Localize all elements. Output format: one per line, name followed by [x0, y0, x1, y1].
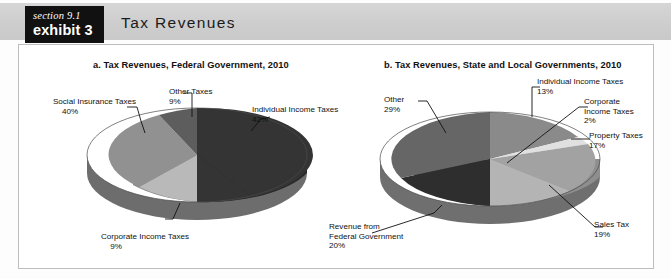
page-title: Tax Revenues	[121, 14, 236, 32]
label-individual-income-taxes-b: Individual Income Taxes 13%	[537, 77, 657, 96]
label-property-taxes: Property Taxes 17%	[589, 131, 669, 150]
label-sales-tax: Sales Tax 19%	[594, 220, 656, 239]
chart-a-title: a. Tax Revenues, Federal Government, 201…	[93, 60, 289, 70]
label-social-insurance-taxes-pct: 40%	[18, 107, 136, 117]
label-sales-tax-pct: 19%	[594, 230, 656, 240]
exhibit-content: a. Tax Revenues, Federal Government, 201…	[18, 44, 654, 269]
label-revenue-federal-government: Revenue from Federal Government 20%	[329, 222, 453, 251]
label-property-taxes-text: Property Taxes	[589, 131, 643, 140]
label-sales-tax-text: Sales Tax	[594, 220, 629, 229]
header-band: section 9.1 exhibit 3 Tax Revenues	[0, 3, 671, 40]
label-corporate-income-taxes-b-l1: Corporate	[584, 97, 620, 106]
label-property-taxes-pct: 17%	[589, 141, 669, 151]
label-other-taxes-text: Other Taxes	[169, 87, 213, 96]
label-individual-income-taxes-b-text: Individual Income Taxes	[537, 77, 623, 86]
label-corporate-income-taxes-b-pct: 2%	[584, 116, 654, 126]
exhibit-tag-block: section 9.1 exhibit 3	[25, 6, 104, 43]
label-individual-income-taxes-b-pct: 13%	[537, 87, 657, 97]
label-revenue-federal-government-l2: Federal Government	[329, 232, 453, 242]
label-other-b-text: Other	[384, 95, 404, 104]
exhibit-label: exhibit 3	[33, 22, 93, 38]
label-revenue-federal-government-l1: Revenue from	[329, 222, 380, 231]
label-corporate-income-taxes-a-text: Corporate Income Taxes	[101, 232, 189, 241]
label-other-b: Other 29%	[384, 95, 436, 114]
label-other-taxes: Other Taxes 9%	[169, 87, 239, 106]
label-other-taxes-pct: 9%	[169, 97, 239, 107]
label-other-b-pct: 29%	[384, 105, 436, 115]
label-revenue-federal-government-pct: 20%	[329, 241, 453, 251]
label-corporate-income-taxes-a: Corporate Income Taxes 9%	[59, 232, 189, 251]
label-corporate-income-taxes-b: Corporate Income Taxes 2%	[584, 97, 654, 126]
exhibit-page: section 9.1 exhibit 3 Tax Revenues a. Ta…	[0, 0, 671, 279]
label-social-insurance-taxes-text: Social Insurance Taxes	[53, 97, 136, 106]
section-label: section 9.1	[33, 10, 81, 21]
label-social-insurance-taxes: Social Insurance Taxes 40%	[18, 97, 136, 116]
label-individual-income-taxes-a-pct: 42%	[252, 115, 362, 125]
label-corporate-income-taxes-b-l2: Income Taxes	[584, 107, 654, 117]
chart-b-title: b. Tax Revenues, State and Local Governm…	[384, 60, 621, 70]
label-corporate-income-taxes-a-pct: 9%	[59, 242, 189, 252]
label-individual-income-taxes-a: Individual Income Taxes 42%	[252, 105, 362, 124]
label-individual-income-taxes-a-text: Individual Income Taxes	[252, 105, 338, 114]
